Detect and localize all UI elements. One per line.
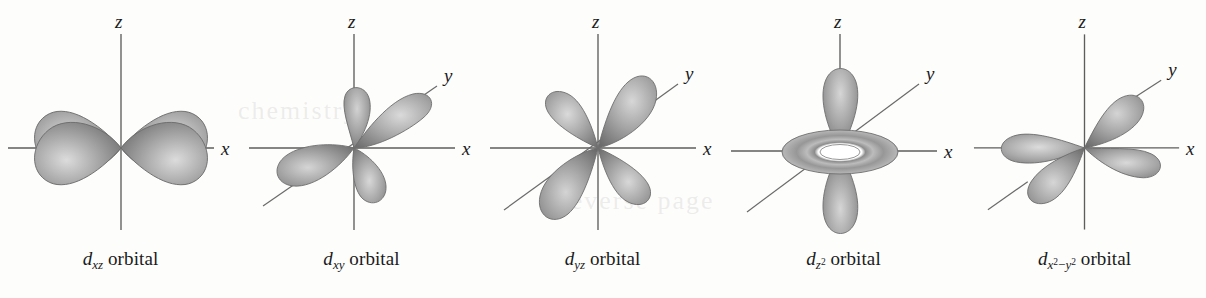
caption-dyz: dyz orbital [482,249,723,272]
axis-label-z: z [114,11,123,32]
caption-subscript: z2 [816,257,826,272]
orbital-panel-dx2y2: z x y dx2−y2 orbital [964,0,1205,298]
orbital-panel-dyz: z x y dyz orbital [482,0,723,298]
axis-label-x: x [702,138,712,159]
orbital-panel-dxy: z x y dxy orbital [241,0,482,298]
caption-dxy: dxy orbital [241,249,482,272]
caption-dxz: dxz orbital [0,249,241,272]
axis-label-x: x [220,138,230,159]
caption-word: orbital [590,248,640,269]
caption-word: orbital [349,248,399,269]
caption-word: orbital [1081,248,1131,269]
caption-dz2: dz2 orbital [723,249,964,272]
orbital-lobes-dz2 [782,69,898,234]
orbital-diagram-dyz: z x y [482,6,723,238]
axis-label-x: x [461,138,471,159]
orbital-lobes-dx2y2 [1001,95,1160,204]
axis-label-y: y [924,63,935,84]
axis-label-y: y [683,63,694,84]
axis-label-y: y [442,65,453,86]
orbital-diagram-dxy: z x y [241,6,482,238]
orbital-diagram-dz2: z x y [723,6,964,238]
axis-label-z: z [347,11,356,32]
caption-sub-exponent: 2 [821,257,826,267]
axis-label-z: z [591,11,600,32]
axis-label-x: x [1185,138,1195,159]
orbital-torus-hole [820,145,860,160]
d-orbital-figure: chemistry reverse page [0,0,1206,298]
caption-symbol: d [565,248,575,269]
caption-symbol: d [83,248,93,269]
orbital-panel-dz2: z x y dz2 orbital [723,0,964,298]
caption-subscript: xz [92,257,103,272]
caption-dx2y2: dx2−y2 orbital [964,249,1205,272]
caption-subscript: xy [333,257,345,272]
axis-label-x: x [943,141,953,162]
axis-line-y [988,182,1028,210]
caption-symbol: d [1038,248,1048,269]
axis-label-y: y [1166,59,1177,80]
axis-label-z: z [833,11,842,32]
caption-subscript: x2−y2 [1048,257,1076,272]
caption-symbol: d [806,248,816,269]
orbital-panel-dxz: z x dxz orbital [0,0,241,298]
caption-subscript: yz [574,257,585,272]
caption-word: orbital [108,248,158,269]
caption-word: orbital [830,248,880,269]
axis-label-z: z [1078,11,1087,32]
caption-symbol: d [323,248,333,269]
orbital-diagram-dx2y2: z x y [964,6,1205,238]
caption-sub-y-exponent: 2 [1071,257,1076,267]
orbital-diagram-dxz: z x [0,6,241,238]
